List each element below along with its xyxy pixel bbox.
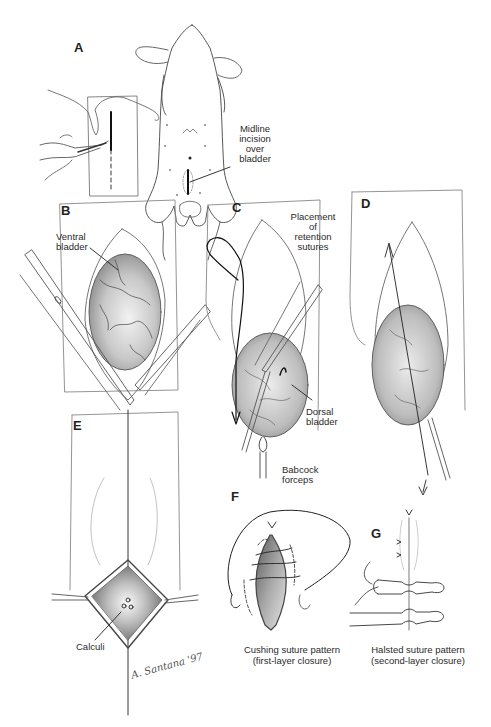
panel-a-rabbit [136, 25, 242, 260]
panel-letter-c: C [232, 200, 241, 215]
surgical-illustration [0, 0, 491, 727]
label-babcock-forceps: Babcock forceps [282, 465, 318, 485]
label-calculi: Calculi [76, 642, 105, 652]
label-ventral-bladder: Ventral bladder [56, 232, 88, 252]
panel-letter-f: F [231, 489, 239, 504]
panel-letter-e: E [73, 418, 82, 433]
panel-e-calculi [52, 410, 198, 715]
caption-cushing-suture-pattern: Cushing suture pattern (first-layer clos… [232, 644, 352, 666]
panel-g-halsted-suture [350, 510, 444, 630]
panel-letter-a: A [74, 40, 83, 55]
label-placement-retention-sutures: Placement of retention sutures [286, 212, 340, 252]
label-dorsal-bladder: Dorsal bladder [306, 407, 338, 427]
panel-a-drape-incision [40, 90, 159, 196]
panel-f-cushing-suture [228, 510, 350, 630]
panel-b-ventral-bladder [20, 200, 210, 410]
label-midline-incision: Midline incision over bladder [230, 124, 280, 164]
panel-letter-d: D [361, 196, 370, 211]
panel-letter-b: B [61, 203, 70, 218]
caption-halsted-suture-pattern: Halsted suture pattern (second-layer clo… [358, 644, 478, 666]
panel-letter-g: G [371, 526, 381, 541]
panel-d-retention [350, 190, 465, 495]
